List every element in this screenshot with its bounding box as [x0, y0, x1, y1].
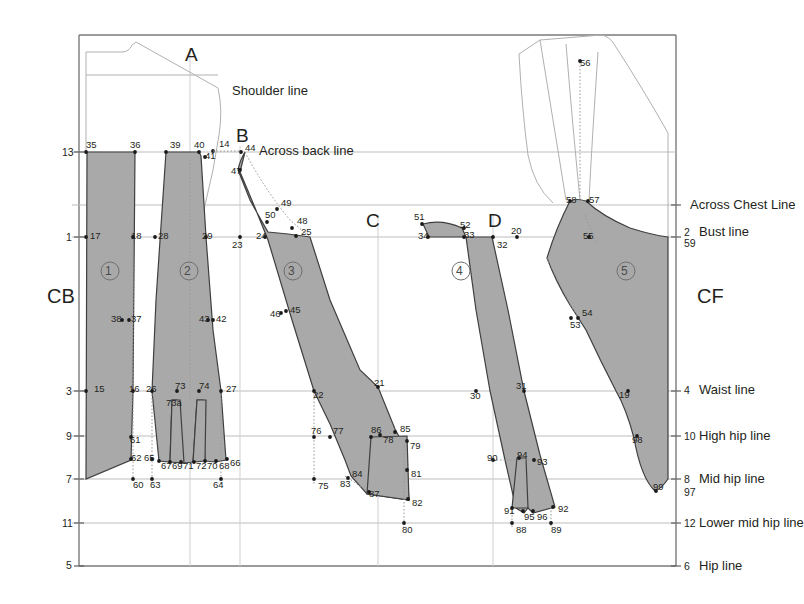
panel-number-1: 1 [105, 264, 112, 278]
point-label-73: 73 [175, 380, 186, 391]
point-label-65: 65 [144, 452, 155, 463]
point-label-74: 74 [199, 380, 210, 391]
point-label-63: 63 [150, 479, 161, 490]
point-label-78: 78 [383, 434, 394, 445]
point-label-25: 25 [301, 226, 312, 237]
point-label-75: 75 [318, 480, 329, 491]
point-label-48: 48 [297, 215, 308, 226]
point-label-37: 37 [131, 313, 142, 324]
panel-number-4: 4 [456, 264, 463, 278]
point-label-35: 35 [86, 139, 97, 150]
left-axis-number-11: 11 [62, 517, 73, 529]
point-label-84: 84 [352, 468, 363, 479]
point-label-98: 98 [632, 434, 643, 445]
point-label-70: 70 [207, 460, 218, 471]
point-label-47: 47 [231, 165, 242, 176]
point-label-42: 42 [216, 313, 227, 324]
left-axis-number-9: 9 [66, 430, 72, 442]
point-label-18: 18 [131, 230, 142, 241]
point-label-81: 81 [411, 468, 422, 479]
panel-number-2: 2 [184, 264, 191, 278]
point-label-56: 56 [580, 57, 591, 68]
point-label-68: 68 [219, 460, 230, 471]
point-label-41: 41 [205, 150, 216, 161]
point-label-87: 87 [369, 488, 380, 499]
point-label-31: 31 [516, 380, 527, 391]
right-axis-label-6: Hip line [699, 558, 742, 573]
point-label-44: 44 [245, 142, 256, 153]
point-label-71: 71 [183, 460, 194, 471]
right-axis-number-4: 4 [684, 384, 690, 396]
point-label-45: 45 [290, 304, 301, 315]
point-label-80: 80 [402, 524, 413, 535]
left-axis-number-13: 13 [62, 146, 74, 158]
right-axis-label-10: High hip line [699, 428, 771, 443]
point-label-19: 19 [619, 389, 630, 400]
point-label-30: 30 [470, 390, 481, 401]
point-label-50: 50 [265, 209, 276, 220]
letter-CF: CF [697, 285, 724, 308]
right-axis-number-6: 6 [684, 560, 690, 572]
point-label-32: 32 [497, 239, 508, 250]
point-label-92: 92 [558, 503, 569, 514]
point-label-40: 40 [194, 139, 205, 150]
point-label-99: 99 [653, 481, 664, 492]
point-label-57: 57 [589, 194, 600, 205]
point-label-55: 55 [583, 230, 594, 241]
point-label-95: 95 [524, 511, 535, 522]
point-label-23: 23 [232, 239, 243, 250]
point-label-64: 64 [213, 479, 224, 490]
letter-D: D [488, 210, 502, 232]
point-label-33: 33 [464, 229, 475, 240]
point-label-62: 62 [131, 452, 142, 463]
point-label-61: 61 [130, 434, 141, 445]
right-axis-label-4: Waist line [699, 382, 755, 397]
point-label-38: 38 [111, 313, 122, 324]
left-axis-number-3: 3 [66, 385, 72, 397]
point-label-51: 51 [414, 211, 425, 222]
point-label-76: 76 [311, 425, 322, 436]
letter-A: A [185, 44, 198, 66]
panel-number-5: 5 [621, 264, 628, 278]
point-label-88: 88 [516, 524, 527, 535]
right-axis-number-12: 12 [684, 517, 696, 529]
point-label-93: 93 [537, 456, 548, 467]
point-label-17: 17 [90, 230, 101, 241]
point-label-39: 39 [170, 139, 181, 150]
point-label-91: 91 [504, 505, 515, 516]
right-axis-label-2: Bust line [699, 224, 749, 239]
point-label-22: 22 [313, 389, 324, 400]
point-label-29: 29 [202, 230, 213, 241]
letter-CB: CB [47, 285, 75, 308]
point-label-15: 15 [94, 383, 105, 394]
letter-C: C [366, 210, 380, 232]
point-label-79: 79 [410, 440, 421, 451]
panel-2-shape [152, 152, 226, 463]
panel-4-shape [423, 222, 555, 513]
point-label-28: 28 [158, 230, 169, 241]
point-label-53: 53 [570, 319, 581, 330]
right-axis-number-97: 97 [684, 486, 696, 498]
point-label-34: 34 [418, 230, 429, 241]
point-label-26: 26 [146, 383, 157, 394]
point-label-72: 72 [196, 460, 207, 471]
point-label-86: 86 [371, 424, 382, 435]
point-label-69: 69 [172, 460, 183, 471]
point-label-85: 85 [400, 423, 411, 434]
point-label-27: 27 [226, 383, 237, 394]
point-label-67: 67 [161, 460, 172, 471]
point-label-60: 60 [133, 479, 144, 490]
point-label-49: 49 [281, 197, 292, 208]
right-axis-label-8: Mid hip line [699, 471, 765, 486]
point-label-89: 89 [551, 524, 562, 535]
point-label-14: 14 [219, 138, 230, 149]
point-label-82: 82 [412, 497, 423, 508]
point-label-20: 20 [511, 225, 522, 236]
point-label-54: 54 [582, 307, 593, 318]
point-label-21: 21 [374, 377, 385, 388]
line-label-0: Shoulder line [232, 83, 308, 98]
panel-5-shape [547, 200, 668, 492]
point-label-73a: 73a [166, 397, 182, 408]
point-label-43: 43 [199, 313, 210, 324]
